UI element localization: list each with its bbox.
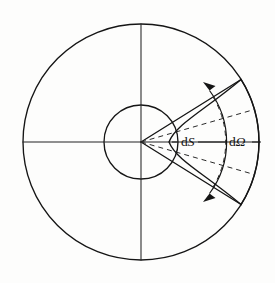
dOmega-label: dΩ [229, 134, 246, 149]
angle-arrow-head-bottom [203, 194, 216, 203]
figure-canvas: dS dΩ [0, 0, 275, 283]
dOmega-label-symbol: Ω [236, 134, 246, 149]
angle-arrow-head-top [203, 82, 216, 91]
dS-label-symbol: S [188, 134, 195, 149]
dS-label: dS [181, 134, 195, 149]
solid-angle-diagram: dS dΩ [0, 0, 275, 283]
